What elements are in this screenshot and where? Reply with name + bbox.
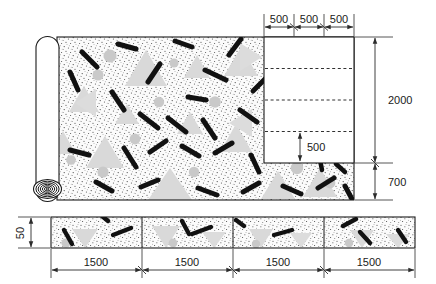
thickness-dim-label: 50 xyxy=(14,227,26,239)
section-strip xyxy=(51,216,415,248)
rolled-sheet-end xyxy=(34,37,62,202)
right-dim-label-700: 700 xyxy=(388,176,406,188)
right-dim-label-2000: 2000 xyxy=(388,94,412,106)
technical-drawing-svg: 500 500 500 2000 700 500 xyxy=(0,0,436,284)
bottom-dim-label-1: 1500 xyxy=(84,256,108,268)
inner-dim-label: 500 xyxy=(307,141,325,153)
roll-spiral xyxy=(34,180,62,199)
top-dim-label-1: 500 xyxy=(270,13,288,25)
top-dim-label-2: 500 xyxy=(300,13,318,25)
roll-body xyxy=(36,37,59,202)
top-dim-label-3: 500 xyxy=(330,13,348,25)
bottom-dim-label-3: 1500 xyxy=(266,256,290,268)
bottom-dim-label-2: 1500 xyxy=(175,256,199,268)
drawing-canvas: 500 500 500 2000 700 500 xyxy=(0,0,436,284)
bottom-dim-label-4: 1500 xyxy=(357,256,381,268)
